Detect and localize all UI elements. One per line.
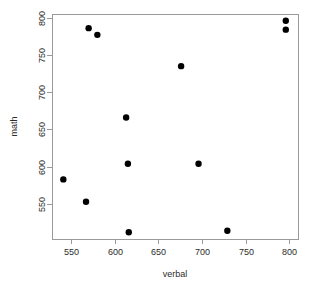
x-tick-label: 800	[282, 247, 297, 257]
data-point	[94, 32, 100, 38]
x-tick-label: 750	[239, 247, 254, 257]
x-tick-label: 550	[64, 247, 79, 257]
plot-canvas: 550600650700750800550600650700750800verb…	[0, 0, 316, 288]
x-axis-title: verbal	[163, 269, 188, 279]
data-point	[126, 229, 132, 235]
data-point	[224, 228, 230, 234]
scatter-plot-figure: 550600650700750800550600650700750800verb…	[0, 0, 316, 288]
data-point	[83, 199, 89, 205]
data-point	[125, 161, 131, 167]
data-point	[178, 63, 184, 69]
y-axis-title: math	[9, 116, 19, 136]
y-tick-label: 650	[37, 122, 47, 137]
data-point	[283, 18, 289, 24]
y-tick-label: 700	[37, 85, 47, 100]
y-tick-label: 800	[37, 11, 47, 26]
data-point	[123, 114, 129, 120]
x-tick-label: 700	[195, 247, 210, 257]
y-tick-label: 750	[37, 48, 47, 63]
data-point	[60, 176, 66, 182]
data-point	[283, 26, 289, 32]
data-point	[85, 25, 91, 31]
y-tick-label: 550	[37, 197, 47, 212]
x-tick-label: 650	[151, 247, 166, 257]
data-point	[195, 161, 201, 167]
x-tick-label: 600	[108, 247, 123, 257]
plot-border-box	[53, 15, 299, 240]
y-tick-label: 600	[37, 160, 47, 175]
